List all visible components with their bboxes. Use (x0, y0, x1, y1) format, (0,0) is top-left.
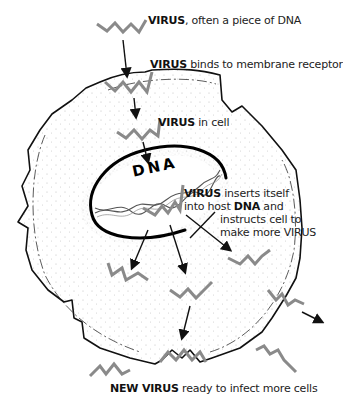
label-line4: make more VIRUS (184, 226, 316, 239)
label-new-virus: NEW VIRUS ready to infect more cells (110, 382, 317, 395)
label-line2c: and (260, 200, 283, 213)
label-text: , often a piece of DNA (185, 14, 301, 27)
label-line3: instructs cell to (184, 213, 316, 226)
label-keyword: VIRUS (158, 116, 195, 129)
label-keyword: VIRUS (150, 58, 187, 71)
label-text: binds to membrane receptor (187, 58, 343, 71)
label-inserts-dna: VIRUS inserts itself into host DNA and i… (184, 187, 316, 239)
label-text: ready to infect more cells (179, 382, 318, 395)
label-line1: inserts itself (221, 187, 289, 200)
label-binds-receptor: VIRUS binds to membrane receptor (150, 58, 343, 71)
label-keyword: VIRUS (148, 14, 185, 27)
label-keyword: VIRUS (184, 187, 221, 200)
label-text: in cell (195, 116, 229, 129)
label-dna-keyword: DNA (234, 200, 260, 213)
label-keyword: NEW VIRUS (110, 382, 179, 395)
label-virus-dna: VIRUS, often a piece of DNA (148, 14, 301, 27)
label-line2a: into host (184, 200, 234, 213)
label-in-cell: VIRUS in cell (158, 116, 229, 129)
